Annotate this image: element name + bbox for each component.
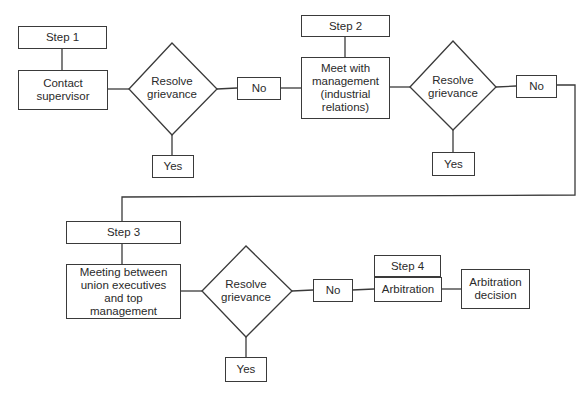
no3-box: No	[313, 279, 353, 302]
meeting-union-box: Meeting between union executives and top…	[66, 264, 181, 319]
connector-lines	[0, 0, 588, 400]
yes2-box: Yes	[432, 152, 475, 176]
decision3-label: Resolve grievance	[213, 274, 279, 308]
decision2-label: Resolve grievance	[420, 70, 486, 104]
decision1-label: Resolve grievance	[139, 70, 205, 106]
step4-box: Step 4	[374, 255, 441, 277]
arbitration-decision-box: Arbitration decision	[461, 269, 530, 309]
step2-box: Step 2	[301, 15, 390, 37]
yes1-box: Yes	[152, 155, 194, 178]
step3-box: Step 3	[66, 221, 181, 244]
yes3-box: Yes	[225, 357, 267, 382]
no1-box: No	[237, 77, 281, 100]
contact-supervisor-box: Contact supervisor	[18, 70, 108, 110]
no2-box: No	[516, 75, 557, 98]
meet-management-box: Meet with management (industrial relatio…	[301, 57, 390, 119]
step1-box: Step 1	[18, 26, 107, 49]
arbitration-box: Arbitration	[374, 277, 442, 302]
